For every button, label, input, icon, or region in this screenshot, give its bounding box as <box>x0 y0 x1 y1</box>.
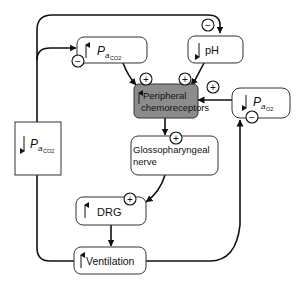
ph-label: pH <box>205 44 219 56</box>
drg-label: DRG <box>97 206 121 218</box>
svg-text:+: + <box>143 74 149 85</box>
paco2-down-subsub: CO2 <box>43 148 54 154</box>
edge-glosso-to-drg <box>146 175 165 202</box>
node-paco2-down: P a CO2 <box>15 122 61 175</box>
sign-glosso-from-chemo: + <box>170 132 182 144</box>
ventilation-label: Ventilation <box>86 255 135 267</box>
svg-text:+: + <box>210 82 216 93</box>
svg-text:−: − <box>205 20 211 31</box>
svg-text:−: − <box>249 112 255 123</box>
node-ventilation: Ventilation <box>74 247 146 274</box>
sign-chemo-from-ph: + <box>179 73 191 85</box>
node-peripheral-chemoreceptors: Peripheral chemoreceptors <box>134 84 209 118</box>
edge-paco2up-to-chemo <box>123 63 136 85</box>
svg-text:+: + <box>127 194 133 205</box>
glosso-line1: Glossopharyngeal <box>133 144 210 155</box>
paco2-up-subsub: CO2 <box>110 55 121 61</box>
node-pao2: P a O2 <box>232 88 290 118</box>
paco2-up-label: P <box>97 44 105 58</box>
sign-chemo-from-paco2: + <box>140 73 152 85</box>
pao2-subsub: O2 <box>266 106 273 112</box>
edge-ph-to-chemo <box>191 63 204 85</box>
chemo-line1: Peripheral <box>143 90 186 101</box>
node-paco2-up: P a CO2 <box>77 37 147 63</box>
pao2-label: P <box>253 95 261 109</box>
edge-ventilation-to-paco2down <box>37 175 74 261</box>
edge-paco2-to-paco2up <box>37 48 76 60</box>
sign-chemo-from-pao2: + <box>207 81 219 93</box>
node-ph: pH <box>188 36 243 63</box>
feedback-diagram: P a CO2 pH Peripheral chemoreceptors P a… <box>0 0 302 286</box>
sign-drg-from-glosso: + <box>124 193 136 205</box>
glosso-line2: nerve <box>133 156 157 167</box>
chemo-line2: chemoreceptors <box>141 102 209 113</box>
sign-ph-inhibit: − <box>202 19 214 31</box>
sign-pao2-inhibit: − <box>246 111 258 123</box>
paco2-down-label: P <box>30 137 38 151</box>
sign-paco2-inhibit: − <box>72 55 84 67</box>
svg-text:+: + <box>173 133 179 144</box>
svg-text:+: + <box>182 74 188 85</box>
svg-text:−: − <box>75 56 81 67</box>
